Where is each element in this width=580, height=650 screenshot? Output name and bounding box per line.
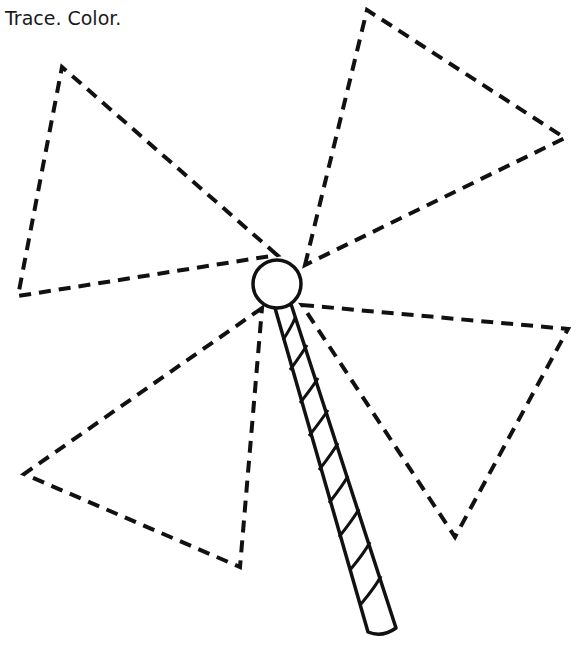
pinwheel-hub [253, 260, 301, 308]
pinwheel-drawing [0, 0, 580, 650]
lower-left-blade-outline [24, 308, 262, 567]
upper-left-blade-outline [18, 67, 277, 296]
upper-right-blade-outline [305, 10, 565, 265]
